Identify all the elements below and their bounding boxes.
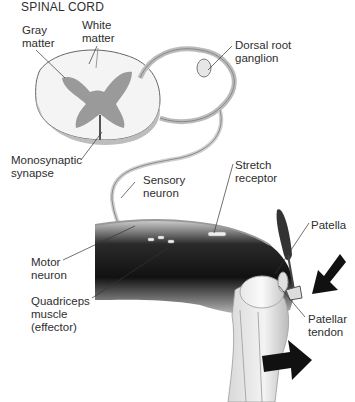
label-monosynaptic-synapse: Monosynaptic synapse <box>11 154 82 180</box>
label-gray-matter: Gray matter <box>22 24 55 50</box>
spinal-cord-cross-section <box>36 48 160 145</box>
patella-shape <box>278 272 288 292</box>
knee-jerk-reflex-illustration <box>0 0 355 402</box>
dorsal-root-ganglion-shape <box>197 59 211 77</box>
label-patella: Patella <box>311 219 346 232</box>
label-stretch-receptor: Stretch receptor <box>235 159 277 185</box>
label-dorsal-root-ganglion: Dorsal root ganglion <box>235 39 291 65</box>
label-motor-neuron: Motor neuron <box>31 256 67 282</box>
hammer-strike-arrow-icon <box>312 254 346 294</box>
label-quadriceps-muscle: Quadriceps muscle (effector) <box>31 295 90 334</box>
label-sensory-neuron: Sensory neuron <box>143 174 185 200</box>
diagram-title: SPINAL CORD <box>21 0 104 14</box>
label-patellar-tendon: Patellar tendon <box>308 313 347 339</box>
label-white-matter: White matter <box>82 19 115 45</box>
knee-and-lower-leg <box>228 272 289 402</box>
